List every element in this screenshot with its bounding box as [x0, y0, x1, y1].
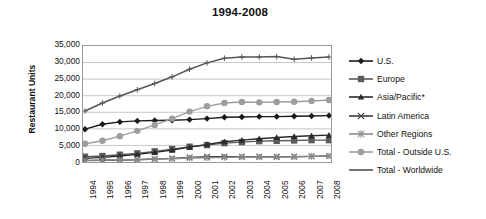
x-axis-tick-labels: 1994199519961997199819992000200120022003… — [82, 165, 332, 217]
legend-item-latin-america[interactable]: Latin America — [348, 107, 484, 125]
data-point-circle — [99, 138, 105, 144]
data-point-plus — [100, 100, 106, 106]
data-point-plus — [239, 54, 245, 60]
series-line — [83, 112, 331, 132]
x-tick-label: 1996 — [123, 180, 133, 199]
data-point-circle — [204, 103, 210, 109]
y-tick-label: 35,000 — [28, 39, 80, 49]
legend-item-other-regions[interactable]: Other Regions — [348, 125, 484, 143]
y-tick-label: 15,000 — [28, 106, 80, 116]
legend-marker-star-icon — [348, 127, 374, 141]
x-tick-label: 1994 — [88, 180, 98, 199]
data-point-circle — [256, 99, 262, 105]
data-point-plus — [274, 54, 280, 60]
legend-label: U.S. — [374, 56, 394, 66]
legend-label: Asia/Pacific* — [374, 92, 425, 102]
data-point-diamond — [134, 118, 140, 124]
legend-item-total-worldwide[interactable]: Total - Worldwide — [348, 161, 484, 179]
x-tick-label: 2005 — [280, 180, 290, 199]
data-point-circle — [358, 149, 364, 155]
legend-label: Total - Worldwide — [374, 165, 443, 175]
data-point-square — [358, 76, 364, 82]
data-point-plus — [204, 60, 210, 66]
x-tick-label: 2001 — [210, 180, 220, 199]
data-point-circle — [291, 98, 297, 104]
data-point-diamond — [204, 115, 210, 121]
data-point-plus — [152, 81, 158, 87]
x-tick-label: 2004 — [262, 180, 272, 199]
chart-title: 1994-2008 — [150, 6, 330, 18]
x-tick-label: 1998 — [158, 180, 168, 199]
data-point-diamond — [99, 121, 105, 127]
data-point-plus — [187, 66, 193, 72]
legend-item-total-outside-u-s[interactable]: Total - Outside U.S. — [348, 143, 484, 161]
data-point-diamond — [326, 112, 331, 118]
legend-label: Total - Outside U.S. — [374, 147, 452, 157]
data-point-diamond — [256, 113, 262, 119]
legend-marker-square-icon — [348, 72, 374, 86]
legend-marker-triangle-icon — [348, 90, 374, 104]
x-tick-label: 2000 — [193, 180, 203, 199]
data-point-circle — [308, 98, 314, 104]
data-point-diamond — [308, 113, 314, 119]
data-point-plus — [309, 55, 315, 61]
data-point-plus — [291, 56, 297, 62]
data-point-diamond — [83, 126, 88, 132]
data-point-diamond — [221, 114, 227, 120]
legend-label: Other Regions — [374, 129, 432, 139]
legend-marker-diamond-icon — [348, 54, 374, 68]
y-tick-label: 30,000 — [28, 56, 80, 66]
data-point-plus — [117, 93, 123, 99]
data-point-diamond — [117, 119, 123, 125]
data-point-diamond — [274, 113, 280, 119]
data-point-diamond — [291, 113, 297, 119]
x-tick-label: 2003 — [245, 180, 255, 199]
chart-legend: U.S.EuropeAsia/Pacific*Latin AmericaOthe… — [348, 52, 484, 179]
x-tick-label: 1995 — [105, 180, 115, 199]
data-point-circle — [274, 99, 280, 105]
data-point-circle — [239, 99, 245, 105]
data-point-diamond — [239, 114, 245, 120]
plot-svg — [83, 46, 331, 162]
data-point-circle — [326, 97, 331, 103]
data-point-circle — [169, 115, 175, 121]
data-point-diamond — [186, 116, 192, 122]
legend-label: Latin America — [374, 111, 429, 121]
data-point-plus — [222, 55, 228, 61]
data-point-square — [326, 137, 331, 143]
legend-item-u-s[interactable]: U.S. — [348, 52, 484, 70]
data-point-plus — [134, 87, 140, 93]
y-tick-label: 5,000 — [28, 140, 80, 150]
data-point-plus — [83, 108, 88, 114]
plot-area — [82, 45, 332, 163]
legend-label: Europe — [374, 74, 405, 84]
x-tick-label: 1999 — [175, 180, 185, 199]
x-tick-label: 2006 — [297, 180, 307, 199]
x-tick-label: 1997 — [140, 180, 150, 199]
data-point-circle — [117, 133, 123, 139]
legend-marker-x-icon — [348, 109, 374, 123]
data-point-plus — [326, 54, 331, 60]
data-point-circle — [186, 108, 192, 114]
data-point-plus — [256, 54, 262, 60]
y-tick-label: 20,000 — [28, 90, 80, 100]
legend-item-europe[interactable]: Europe — [348, 70, 484, 88]
data-point-diamond — [358, 58, 364, 64]
y-tick-label: 0 — [28, 157, 80, 167]
x-tick-label: 2002 — [227, 180, 237, 199]
legend-marker-plus-icon — [348, 163, 374, 177]
legend-item-asia-pacific[interactable]: Asia/Pacific* — [348, 88, 484, 106]
y-axis-tick-labels: 35,00030,00025,00020,00015,00010,0005,00… — [22, 0, 80, 219]
data-point-circle — [83, 141, 88, 147]
legend-marker-circle-icon — [348, 145, 374, 159]
data-point-circle — [221, 100, 227, 106]
data-point-circle — [134, 128, 140, 134]
y-tick-label: 10,000 — [28, 123, 80, 133]
x-tick-label: 2008 — [332, 180, 342, 199]
x-tick-label: 2007 — [315, 180, 325, 199]
y-tick-label: 25,000 — [28, 73, 80, 83]
chart-container: 1994-2008 Restaurant Units 35,00030,0002… — [0, 0, 486, 219]
data-point-circle — [152, 122, 158, 128]
